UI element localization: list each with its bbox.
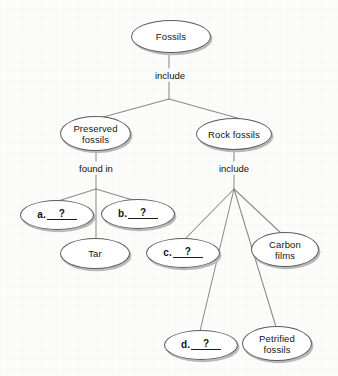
blank-letter: c. [163,247,172,258]
node-label: a.? [34,209,80,221]
node-label: Rock fossils [205,129,263,140]
node-blank-a[interactable]: a.? [20,200,94,230]
blank-answer-slot[interactable]: ? [128,207,158,219]
node-label: b.? [115,208,161,220]
node-label: Fossils [153,31,189,42]
node-label: Carbon films [266,239,304,261]
blank-letter: d. [181,339,190,350]
connector-label-found-in: found in [68,163,124,174]
node-tar: Tar [60,238,130,269]
node-fossils: Fossils [131,20,211,53]
node-blank-b[interactable]: b.? [101,199,175,229]
connector-lines [0,0,338,376]
node-petrified-fossils: Petrified fossils [242,326,312,361]
blank-answer-slot[interactable]: ? [191,338,221,350]
node-carbon-films: Carbon films [251,232,319,267]
blank-answer-slot[interactable]: ? [173,246,203,258]
connector-label-include-rocks: include [209,163,259,174]
blank-answer-slot[interactable]: ? [47,208,77,220]
node-preserved-fossils: Preserved fossils [60,116,131,151]
line-fan-to-blank-a [58,189,96,201]
blank-letter: b. [118,208,127,219]
node-blank-c[interactable]: c.? [146,238,220,268]
node-rock-fossils: Rock fossils [196,118,272,150]
node-label: Petrified fossils [256,333,298,355]
connector-label-include-top: include [145,70,195,81]
node-label: Preserved fossils [70,123,120,145]
node-blank-d[interactable]: d.? [164,330,238,360]
line-fan2-to-carbon [234,189,282,234]
blank-letter: a. [37,209,46,220]
line-fork-to-rock [169,99,241,119]
node-label: d.? [178,339,224,351]
line-fan2-to-blank-c [184,189,234,240]
node-label: Tar [85,248,105,259]
node-label: c.? [160,247,206,259]
concept-map-diagram: FossilsPreserved fossilsRock fossilsa.?b… [0,0,338,376]
